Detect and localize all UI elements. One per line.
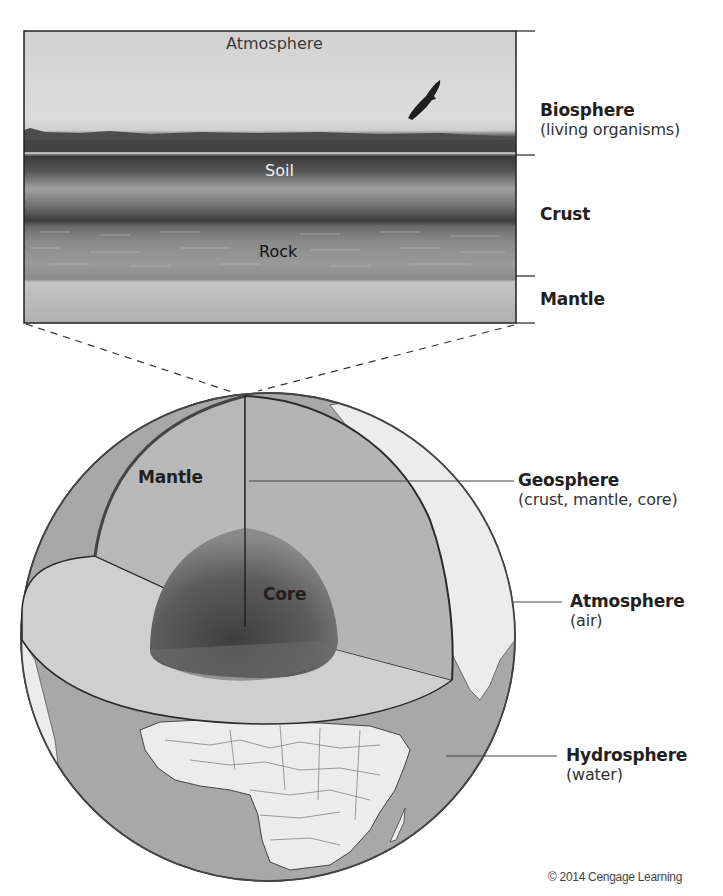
bracket-crust: Crust — [540, 204, 590, 224]
geosphere-subtitle: (crust, mantle, core) — [518, 490, 678, 509]
inset-label-soil: Soil — [265, 161, 294, 180]
callout-geosphere: Geosphere (crust, mantle, core) — [518, 470, 678, 509]
globe-label-core: Core — [263, 584, 306, 604]
geosphere-title: Geosphere — [518, 470, 678, 490]
inset-bracket — [516, 31, 535, 323]
atmosphere-title: Atmosphere — [570, 591, 685, 611]
bracket-biosphere: Biosphere (living organisms) — [540, 100, 680, 139]
biosphere-title: Biosphere — [540, 100, 680, 120]
biosphere-subtitle: (living organisms) — [540, 120, 680, 139]
zoom-guide-lines — [26, 324, 514, 392]
atmosphere-subtitle: (air) — [570, 611, 685, 630]
inset-label-atmosphere: Atmosphere — [226, 34, 323, 53]
hydrosphere-title: Hydrosphere — [566, 745, 687, 765]
globe-label-mantle: Mantle — [138, 467, 203, 487]
globe — [21, 393, 515, 881]
callout-hydrosphere: Hydrosphere (water) — [566, 745, 687, 784]
inset-label-rock: Rock — [259, 242, 297, 261]
copyright-credit: © 2014 Cengage Learning — [548, 870, 682, 884]
hydrosphere-subtitle: (water) — [566, 765, 687, 784]
bracket-mantle: Mantle — [540, 289, 605, 309]
callout-atmosphere: Atmosphere (air) — [570, 591, 685, 630]
